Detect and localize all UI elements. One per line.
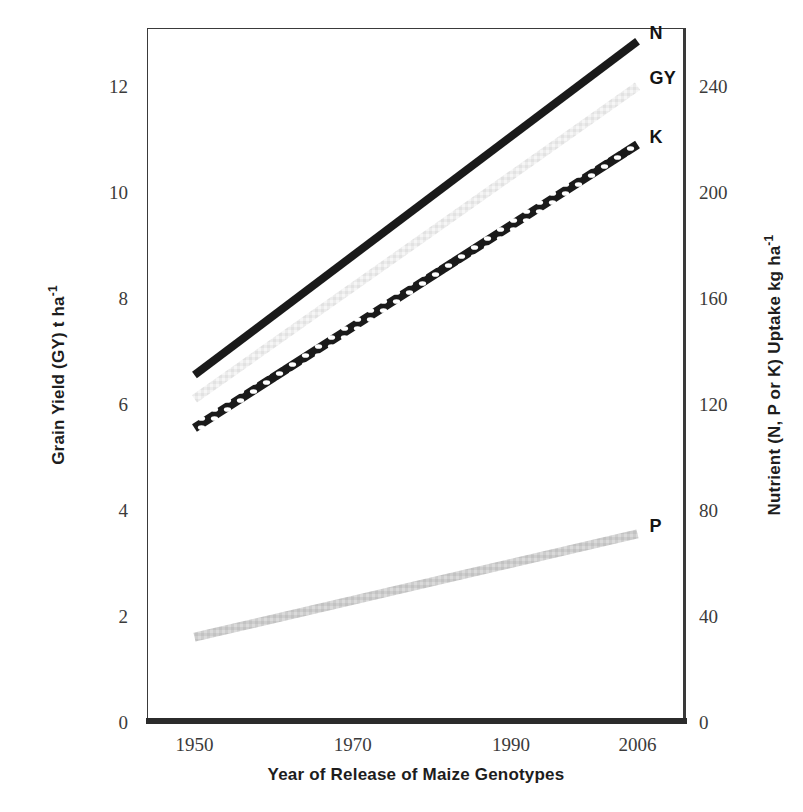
y-axis-left-tick-label: 10 [109,183,128,202]
x-axis-title: Year of Release of Maize Genotypes [147,765,685,785]
y-axis-right-title-text: Nutrient (N, P or K) Uptake kg ha [765,246,784,516]
plot-area-frame [147,28,685,722]
x-axis-tick-label: 1970 [334,735,372,754]
y-axis-right-tick-label: 120 [699,395,728,414]
y-axis-left-tick-label: 8 [119,289,129,308]
right-axis-line [683,28,686,722]
y-axis-right-tick-label: 40 [699,607,718,626]
series-label-k: K [650,127,663,148]
y-axis-left-tick-label: 0 [119,713,129,732]
y-axis-right-tick-label: 200 [699,183,728,202]
y-axis-left-tick-label: 4 [119,501,129,520]
y-axis-right-tick-label: 160 [699,289,728,308]
series-label-gy: GY [650,68,677,89]
y-axis-right-title-superscript: -1 [762,235,776,246]
y-axis-left-tick-label: 2 [119,607,129,626]
x-axis-line [146,718,687,724]
y-axis-left-title-text: Grain Yield (GY) t ha [49,296,68,465]
series-label-n: N [650,23,663,44]
y-axis-left-tick-label: 6 [119,395,129,414]
x-axis-tick-label: 1990 [492,735,530,754]
y-axis-right-tick-label: 80 [699,501,718,520]
y-axis-left-title: Grain Yield (GY) t ha-1 [46,28,69,722]
y-axis-left-tick-label: 12 [109,77,128,96]
x-axis-tick-label: 2006 [619,735,657,754]
series-label-p: P [650,516,662,537]
y-axis-left-title-superscript: -1 [46,285,60,296]
y-axis-right-tick-label: 0 [699,713,709,732]
y-axis-right-tick-label: 240 [699,77,728,96]
y-axis-right-title: Nutrient (N, P or K) Uptake kg ha-1 [762,28,785,722]
chart-figure: 024681012 04080120160200240 195019701990… [0,0,803,812]
x-axis-tick-label: 1950 [175,735,213,754]
